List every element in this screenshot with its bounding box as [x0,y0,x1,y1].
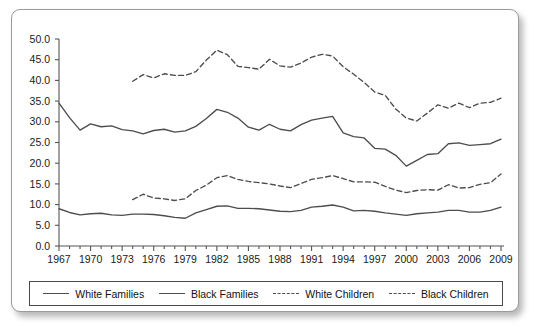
x-tick-label: 2000 [395,253,419,265]
chart-legend: White FamiliesBlack FamiliesWhite Childr… [29,281,503,306]
chart-axes [55,39,504,251]
series-line-black-children [133,50,501,121]
y-tick-label: 40.0 [30,74,51,86]
x-tick-label: 1994 [331,253,355,265]
y-tick-label: 30.0 [30,115,51,127]
x-tick-label: 1970 [79,253,103,265]
legend-entry: White Families [43,288,144,300]
chart-figure-container: 0.05.010.015.020.025.030.035.040.045.050… [11,9,519,312]
y-tick-label: 25.0 [30,136,51,148]
x-tick-label: 2006 [458,253,482,265]
legend-line-swatch-icon [273,293,299,294]
y-tick-label: 15.0 [30,178,51,190]
y-tick-label: 10.0 [30,198,51,210]
line-chart-svg: 0.05.010.015.020.025.030.035.040.045.050… [12,10,520,313]
y-tick-label: 45.0 [30,53,51,65]
chart-series-group [59,50,501,218]
x-tick-label: 1997 [363,253,387,265]
legend-label: Black Families [191,288,259,300]
x-tick-label: 1967 [47,253,71,265]
series-line-black-families [59,103,501,166]
y-axis-tick-labels: 0.05.010.015.020.025.030.035.040.045.050… [30,33,51,252]
x-tick-label: 1979 [174,253,198,265]
y-tick-label: 20.0 [30,157,51,169]
chart-legend-items: White FamiliesBlack FamiliesWhite Childr… [30,282,502,305]
chart-plot-area: 0.05.010.015.020.025.030.035.040.045.050… [12,10,520,313]
legend-entry: Black Families [159,288,259,300]
y-tick-label: 0.0 [35,240,50,252]
x-tick-label: 2003 [426,253,450,265]
x-tick-label: 2009 [489,253,513,265]
legend-entry: Black Children [389,288,489,300]
x-tick-label: 1976 [142,253,166,265]
x-tick-label: 1991 [300,253,324,265]
legend-entry: White Children [273,288,374,300]
x-tick-label: 1982 [205,253,229,265]
legend-line-swatch-icon [389,293,415,294]
legend-label: White Children [305,288,374,300]
x-tick-label: 1985 [237,253,261,265]
y-tick-label: 35.0 [30,95,51,107]
legend-label: Black Children [421,288,489,300]
series-line-white-children [133,174,501,201]
x-tick-label: 1973 [110,253,134,265]
y-tick-label: 5.0 [35,219,50,231]
y-tick-label: 50.0 [30,33,51,45]
series-line-white-families [59,205,501,218]
x-axis-tick-labels: 1967197019731976197919821985198819911994… [47,253,513,265]
legend-line-swatch-icon [159,293,185,294]
legend-line-swatch-icon [43,293,69,294]
legend-label: White Families [75,288,144,300]
x-tick-label: 1988 [268,253,292,265]
